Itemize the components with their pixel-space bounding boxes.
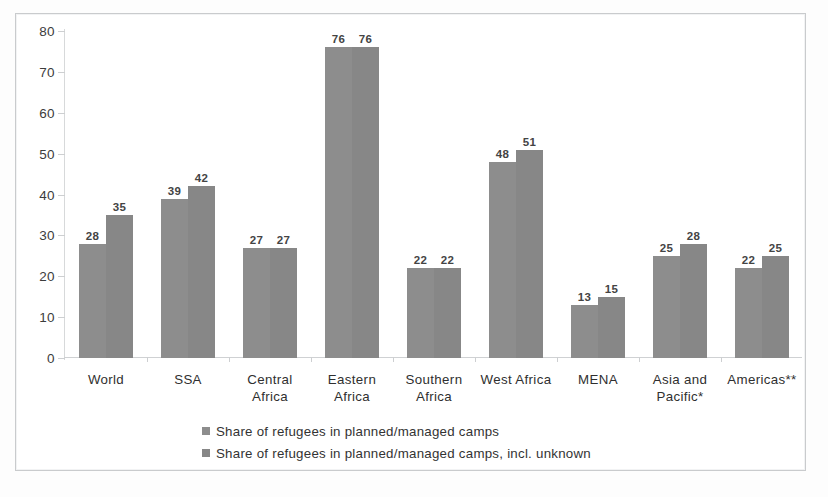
bar-pair: 2222 xyxy=(407,31,461,358)
x-axis-category-line: Pacific* xyxy=(633,388,727,405)
square-marker xyxy=(202,427,210,435)
bar-value-label: 25 xyxy=(769,242,782,254)
bar[interactable]: 35 xyxy=(106,215,133,358)
bar[interactable]: 76 xyxy=(325,47,352,358)
x-axis-category-label: Asia andPacific* xyxy=(633,371,727,405)
x-axis-category-line: MENA xyxy=(551,371,645,388)
y-axis-tick-label: 50 xyxy=(39,146,55,161)
y-axis-tick-label: 40 xyxy=(39,187,55,202)
bar-value-label: 27 xyxy=(277,234,290,246)
x-axis-category-line: West Africa xyxy=(469,371,563,388)
bar-pair: 2225 xyxy=(735,31,789,358)
x-axis-category-label: CentralAfrica xyxy=(223,371,317,405)
bar[interactable]: 51 xyxy=(516,150,543,358)
bar-pair: 2528 xyxy=(653,31,707,358)
screenshot-root: 01020304050607080 2835World3942SSA2727Ce… xyxy=(0,0,828,497)
x-axis-category-line: Asia and xyxy=(633,371,727,388)
bar-group: 3942SSA xyxy=(147,31,229,358)
y-axis-tick-label: 0 xyxy=(47,351,55,366)
bar-value-label: 22 xyxy=(742,254,755,266)
bar-pair: 1315 xyxy=(571,31,625,358)
x-axis-category-label: SSA xyxy=(141,371,235,388)
bar-groups: 2835World3942SSA2727CentralAfrica7676Eas… xyxy=(65,31,803,358)
bar[interactable]: 13 xyxy=(571,305,598,358)
chart-frame: 01020304050607080 2835World3942SSA2727Ce… xyxy=(15,13,806,471)
x-axis-category-label: EasternAfrica xyxy=(305,371,399,405)
y-axis-tick xyxy=(58,154,65,155)
bar[interactable]: 15 xyxy=(598,297,625,358)
bar-value-label: 28 xyxy=(86,230,99,242)
bar-group: 7676EasternAfrica xyxy=(311,31,393,358)
bar-group: 2727CentralAfrica xyxy=(229,31,311,358)
bar-pair: 7676 xyxy=(325,31,379,358)
plot-area: 01020304050607080 2835World3942SSA2727Ce… xyxy=(64,31,805,358)
bar-group: 1315MENA xyxy=(557,31,639,358)
y-axis-tick-label: 80 xyxy=(39,24,55,39)
bar[interactable]: 76 xyxy=(352,47,379,358)
y-axis-tick xyxy=(58,113,65,114)
x-axis-category-line: Africa xyxy=(305,388,399,405)
bar[interactable]: 28 xyxy=(680,244,707,358)
bar[interactable]: 48 xyxy=(489,162,516,358)
legend-item-label: Share of refugees in planned/managed cam… xyxy=(216,446,591,461)
bar-value-label: 22 xyxy=(441,254,454,266)
bar-value-label: 35 xyxy=(113,201,126,213)
bar-value-label: 76 xyxy=(332,33,345,45)
bar[interactable]: 22 xyxy=(407,268,434,358)
x-axis-category-label: Americas** xyxy=(715,371,809,388)
x-axis-category-line: Southern xyxy=(387,371,481,388)
bar-group: 2222SouthernAfrica xyxy=(393,31,475,358)
legend-item-label: Share of refugees in planned/managed cam… xyxy=(216,424,499,439)
bar-value-label: 42 xyxy=(195,172,208,184)
y-axis-tick xyxy=(58,31,65,32)
bar-value-label: 22 xyxy=(414,254,427,266)
bar-value-label: 48 xyxy=(496,148,509,160)
legend-item[interactable]: Share of refugees in planned/managed cam… xyxy=(202,442,672,464)
bar-value-label: 76 xyxy=(359,33,372,45)
y-axis-tick xyxy=(58,195,65,196)
bar-value-label: 28 xyxy=(687,230,700,242)
x-axis-category-label: MENA xyxy=(551,371,645,388)
bar-group: 2528Asia andPacific* xyxy=(639,31,721,358)
x-axis-category-line: SSA xyxy=(141,371,235,388)
y-axis-tick-label: 10 xyxy=(39,310,55,325)
bar[interactable]: 25 xyxy=(762,256,789,358)
y-axis-tick xyxy=(58,317,65,318)
bar[interactable]: 42 xyxy=(188,186,215,358)
square-marker xyxy=(202,449,210,457)
x-axis-category-label: West Africa xyxy=(469,371,563,388)
y-axis-tick-label: 70 xyxy=(39,64,55,79)
x-axis-category-label: SouthernAfrica xyxy=(387,371,481,405)
bar[interactable]: 39 xyxy=(161,199,188,358)
y-axis-tick-label: 30 xyxy=(39,228,55,243)
bar[interactable]: 22 xyxy=(434,268,461,358)
bar-group: 2835World xyxy=(65,31,147,358)
bar-pair: 3942 xyxy=(161,31,215,358)
y-axis-tick xyxy=(58,276,65,277)
x-axis-category-line: Africa xyxy=(223,388,317,405)
y-axis-tick xyxy=(58,358,65,359)
y-axis-tick xyxy=(58,235,65,236)
x-axis-category-line: World xyxy=(59,371,153,388)
bar-value-label: 51 xyxy=(523,136,536,148)
x-axis-category-line: Eastern xyxy=(305,371,399,388)
y-axis-tick-label: 60 xyxy=(39,105,55,120)
chart-legend: Share of refugees in planned/managed cam… xyxy=(202,420,672,464)
y-axis-tick-label: 20 xyxy=(39,269,55,284)
legend-item[interactable]: Share of refugees in planned/managed cam… xyxy=(202,420,672,442)
bar[interactable]: 25 xyxy=(653,256,680,358)
bar-pair: 4851 xyxy=(489,31,543,358)
bar-group: 2225Americas** xyxy=(721,31,803,358)
bar-group: 4851West Africa xyxy=(475,31,557,358)
bar-pair: 2835 xyxy=(79,31,133,358)
bar-pair: 2727 xyxy=(243,31,297,358)
bar[interactable]: 28 xyxy=(79,244,106,358)
bar[interactable]: 22 xyxy=(735,268,762,358)
bar[interactable]: 27 xyxy=(243,248,270,358)
bar-value-label: 25 xyxy=(660,242,673,254)
bar-value-label: 13 xyxy=(578,291,591,303)
x-axis-category-line: Africa xyxy=(387,388,481,405)
bar-value-label: 27 xyxy=(250,234,263,246)
y-axis-tick xyxy=(58,72,65,73)
bar[interactable]: 27 xyxy=(270,248,297,358)
